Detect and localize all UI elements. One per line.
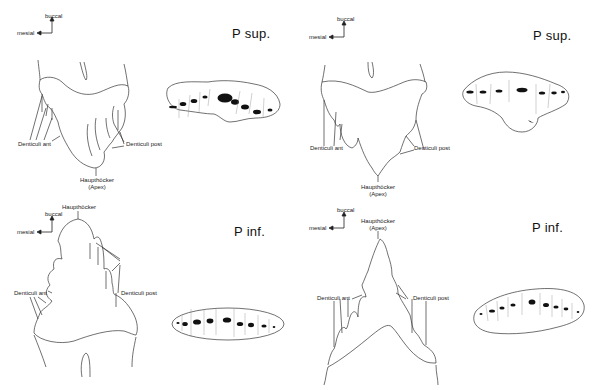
panel-p-inf-right: P inf. buccal mesial Haupthöcker (Apex) … — [300, 195, 593, 390]
label-haupthoecker: Haupthöcker (Apex) — [80, 177, 114, 191]
haupthoecker-text: Haupthöcker — [360, 184, 396, 191]
panel-title: P inf. — [532, 220, 563, 235]
label-denticuli-ant: Denticuli ant — [18, 141, 51, 148]
orientation-arrow-icon — [329, 212, 346, 230]
apex-text: (Apex) — [358, 225, 398, 232]
label-haupthoecker: Haupthöcker — [62, 204, 96, 211]
panel-title: P inf. — [234, 224, 265, 239]
orientation-label-buccal: buccal — [45, 13, 62, 20]
label-denticuli-ant: Denticuli ant — [14, 290, 47, 297]
panel-p-sup-right: P sup. buccal mesial Denticuli ant Denti… — [300, 0, 593, 195]
orientation-label-mesial: mesial — [309, 34, 326, 41]
label-haupthoecker: Haupthöcker (Apex) — [358, 218, 398, 232]
label-denticuli-post: Denticuli post — [413, 295, 449, 302]
apex-text: (Apex) — [80, 184, 114, 191]
label-denticuli-ant: Denticuli ant — [317, 295, 350, 302]
orientation-arrow-icon — [37, 216, 54, 234]
haupthoecker-text: Haupthöcker — [358, 218, 398, 225]
orientation-label-buccal: buccal — [337, 207, 354, 214]
orientation-label-mesial: mesial — [309, 225, 326, 232]
panel-p-sup-left: P sup. buccal mesial Denticuli ant Denti… — [0, 0, 296, 195]
label-denticuli-post: Denticuli post — [414, 145, 450, 152]
panel-title: P sup. — [533, 28, 571, 43]
label-denticuli-post: Denticuli post — [126, 141, 162, 148]
orientation-label-buccal: buccal — [337, 16, 354, 23]
haupthoecker-text: Haupthöcker — [80, 177, 114, 184]
orientation-label-mesial: mesial — [17, 30, 34, 37]
label-denticuli-ant: Denticuli ant — [310, 145, 343, 152]
panel-title: P sup. — [232, 26, 270, 41]
label-denticuli-post: Denticuli post — [121, 290, 157, 297]
orientation-arrow-icon — [329, 21, 346, 39]
panel-p-inf-left: P inf. buccal mesial Haupthöcker Denticu… — [0, 195, 296, 390]
orientation-label-buccal: buccal — [45, 211, 62, 218]
orientation-label-mesial: mesial — [17, 229, 34, 236]
